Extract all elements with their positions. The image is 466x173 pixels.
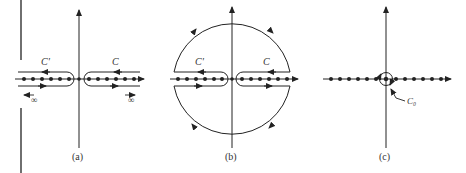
caption-a: (a)	[72, 151, 83, 163]
panel-c: C₀ (c)	[323, 7, 451, 163]
caption-b: (b)	[225, 151, 237, 163]
label-c-prime: C'	[41, 56, 51, 67]
label-c0: C₀	[407, 96, 416, 106]
caption-c: (c)	[379, 151, 390, 163]
label-c: C	[263, 56, 270, 67]
label-c-prime: C'	[195, 56, 205, 67]
panel-b: C' C (b)	[170, 7, 298, 163]
panel-a: C' C ∞ ∞ (a)	[15, 10, 144, 163]
infinity-left: ∞	[31, 95, 37, 105]
infinity-right: ∞	[128, 95, 134, 105]
label-c: C	[112, 56, 119, 67]
c0-pointer	[391, 89, 405, 101]
contour-diagram: C' C ∞ ∞ (a) C' C	[0, 0, 466, 173]
